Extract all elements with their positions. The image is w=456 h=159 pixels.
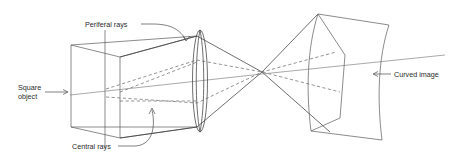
curved-image-surface bbox=[308, 14, 389, 140]
square-object-plane bbox=[71, 30, 197, 148]
optics-diagram-canvas: Periferal rays Square object Central ray… bbox=[0, 0, 456, 159]
optical-axis bbox=[70, 55, 445, 95]
label-square-object-line1: Square bbox=[18, 83, 41, 92]
label-peripheral-rays: Periferal rays bbox=[85, 20, 128, 29]
label-square-object-line2: object bbox=[18, 92, 37, 101]
label-central-rays: Central rays bbox=[72, 142, 111, 151]
ray-diagram-svg: Periferal rays Square object Central ray… bbox=[0, 0, 456, 159]
label-curved-image: Curved image bbox=[394, 70, 439, 79]
central-rays-group bbox=[106, 52, 340, 103]
leader-lines-group bbox=[45, 24, 391, 146]
